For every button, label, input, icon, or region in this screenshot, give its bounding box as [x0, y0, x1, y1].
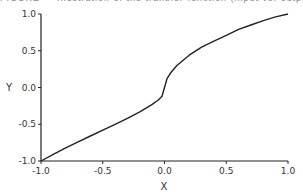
y-tick-label: 0.5: [22, 46, 36, 56]
x-tick-label: 0.5: [219, 166, 233, 176]
data-curve: [41, 14, 288, 161]
series-line: [41, 14, 288, 161]
y-tick-label: -0.5: [18, 119, 36, 129]
y-tick-label: 0.0: [22, 83, 37, 93]
x-axis-label: X: [161, 181, 168, 192]
x-tick-label: 1.0: [281, 166, 296, 176]
x-tick-label: 0.0: [157, 166, 172, 176]
y-tick-label: 1.0: [22, 9, 37, 19]
x-tick-label: -0.5: [94, 166, 112, 176]
line-chart: -1.0-0.50.00.51.0-1.0-0.50.00.51.0 X Y: [0, 0, 303, 196]
x-tick-label: -1.0: [32, 166, 50, 176]
y-axis-label: Y: [5, 82, 13, 93]
y-tick-label: -1.0: [18, 156, 36, 166]
